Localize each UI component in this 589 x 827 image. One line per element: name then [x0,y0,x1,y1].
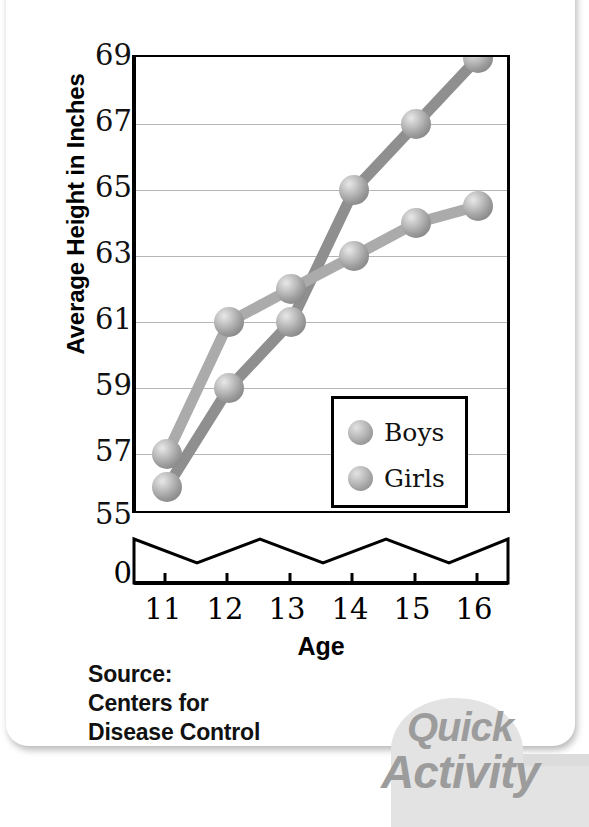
data-point-boys [214,373,244,403]
data-point-girls [276,274,306,304]
y-tick-label: 57 [62,437,132,466]
legend-label: Girls [384,464,445,493]
source-line: Disease Control [88,718,260,747]
data-point-boys [339,175,369,205]
legend-item-girls: Girls [348,455,465,501]
y-tick-label: 69 [62,41,132,70]
source-note: Source: Centers for Disease Control [88,660,260,747]
y-tick-label: 63 [62,239,132,268]
legend-swatch-icon [348,420,373,445]
data-point-boys [276,307,306,337]
legend-item-boys: Boys [348,409,465,455]
data-point-girls [214,307,244,337]
x-tick-label: 13 [256,592,318,626]
axis-break-zigzag-icon [132,533,510,585]
y-tick-label: 59 [62,371,132,400]
x-tick-label: 15 [381,592,443,626]
data-point-girls [401,208,431,238]
y-axis-break-label: 0 [62,556,132,590]
legend-swatch-icon [348,466,373,491]
badge-text: Quick Activity [331,706,589,796]
data-point-boys [401,109,431,139]
data-point-boys [152,472,182,502]
data-point-girls [463,191,493,221]
source-line: Centers for [88,689,260,718]
x-tick-label: 11 [132,592,194,626]
y-tick-label: 67 [62,107,132,136]
y-tick-label: 65 [62,173,132,202]
plot-area: Boys Girls [132,55,510,513]
quick-activity-badge[interactable]: Quick Activity [331,692,589,827]
x-tick-label: 12 [194,592,256,626]
legend-label: Boys [384,418,444,447]
x-axis-title: Age [132,632,510,661]
data-point-girls [152,439,182,469]
x-tick-label: 14 [319,592,381,626]
x-tick-label: 16 [443,592,505,626]
badge-line-1: Quick [407,705,513,749]
chart-legend: Boys Girls [331,396,468,508]
source-line: Source: [88,660,260,689]
y-tick-label: 55 [62,500,132,529]
x-axis-tick-labels: 11 12 13 14 15 16 [132,592,510,626]
data-point-girls [339,241,369,271]
y-axis-title: Average Height in Inches [62,34,90,394]
y-tick-label: 61 [62,305,132,334]
badge-line-2: Activity [331,748,589,796]
y-axis-break [132,533,510,585]
